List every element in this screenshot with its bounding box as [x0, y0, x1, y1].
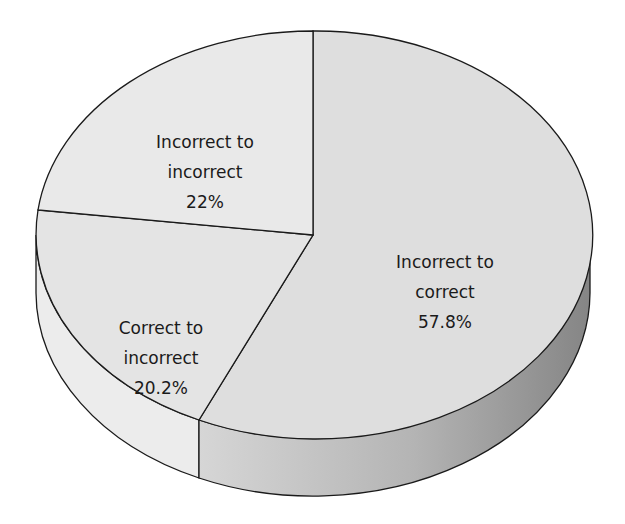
label-line1: Incorrect to [396, 252, 494, 272]
label-line2: incorrect [123, 348, 198, 368]
label-line2: correct [415, 282, 475, 302]
label-value: 20.2% [134, 378, 188, 398]
label-line1: Correct to [119, 318, 204, 338]
label-line2: incorrect [167, 162, 242, 182]
label-value: 22% [186, 192, 224, 212]
pie-chart: Incorrect to incorrect 22% Incorrect to … [0, 0, 625, 524]
label-value: 57.8% [418, 312, 472, 332]
label-line1: Incorrect to [156, 132, 254, 152]
